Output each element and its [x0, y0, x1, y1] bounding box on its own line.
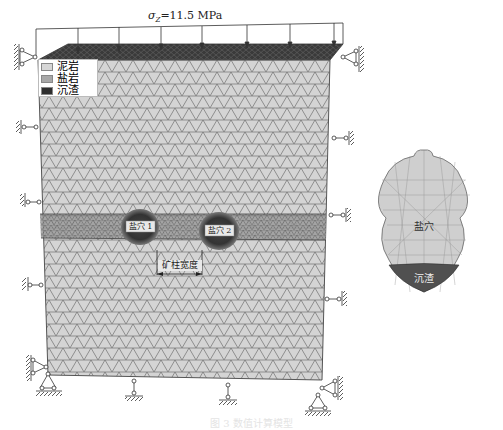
- model-main-body: [38, 60, 330, 380]
- model-top-surface: [38, 44, 343, 60]
- legend-label: 沉渣: [57, 85, 79, 97]
- salt-swatch: [41, 75, 53, 83]
- pillar-width-label: 矿柱宽度: [158, 259, 202, 271]
- load-symbol: σ: [148, 9, 156, 22]
- bottom-supports: [125, 379, 237, 405]
- cavity-2-label: 盐穴 2: [205, 225, 234, 236]
- figure-caption: 图 3 数值计算模型: [0, 415, 503, 430]
- cavity-1-label: 盐穴 1: [126, 221, 155, 232]
- load-value: =11.5 MPa: [160, 9, 222, 22]
- mudstone-swatch: [41, 63, 53, 71]
- detail-cavity-label: 盐穴: [410, 218, 438, 233]
- detail-sediment-label: 沉渣: [408, 270, 440, 285]
- load-label: σZ=11.5 MPa: [148, 9, 222, 24]
- material-legend: 泥岩 盐岩 沉渣: [38, 59, 98, 97]
- sediment-swatch: [41, 87, 53, 95]
- legend-item-sediment: 沉渣: [41, 85, 95, 97]
